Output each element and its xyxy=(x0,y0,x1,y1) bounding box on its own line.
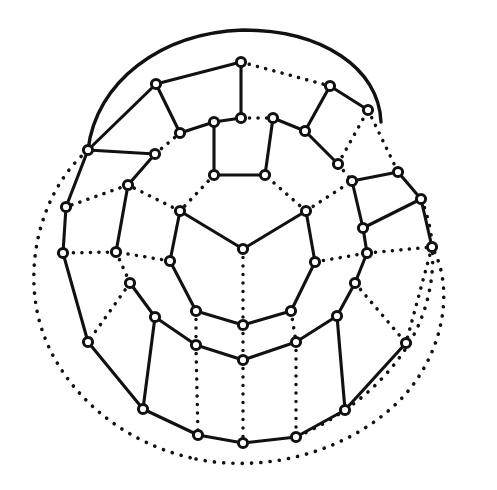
graph-vertex xyxy=(151,79,160,88)
graph-vertex xyxy=(350,278,359,287)
graph-vertex xyxy=(150,149,159,158)
graph-vertex xyxy=(58,248,67,257)
graph-vertex xyxy=(291,337,300,346)
graph-vertex xyxy=(347,176,356,185)
graph-vertex xyxy=(138,404,147,413)
graph-vertex xyxy=(393,167,402,176)
graph-vertex xyxy=(236,113,245,122)
graph-vertex xyxy=(236,57,245,66)
graph-vertex xyxy=(301,206,310,215)
graph-vertex xyxy=(191,340,200,349)
graph-vertex xyxy=(416,194,425,203)
graph-vertex xyxy=(191,306,200,315)
graph-vertex xyxy=(268,113,277,122)
graph-vertex xyxy=(260,170,269,179)
graph-figure xyxy=(0,0,497,490)
graph-vertex xyxy=(209,170,218,179)
graph-vertex xyxy=(165,256,174,265)
graph-vertex xyxy=(325,81,334,90)
graph-vertex xyxy=(123,180,132,189)
graph-vertex xyxy=(332,311,341,320)
graph-vertex xyxy=(83,337,92,346)
graph-vertex xyxy=(175,128,184,137)
graph-vertex xyxy=(333,159,342,168)
graph-vertex xyxy=(291,432,300,441)
graph-vertex xyxy=(358,223,367,232)
graph-vertex xyxy=(83,145,92,154)
graph-vertex xyxy=(362,248,371,257)
graph-canvas xyxy=(0,0,497,490)
graph-vertex xyxy=(401,338,410,347)
graph-vertex xyxy=(427,242,436,251)
graph-vertex xyxy=(300,126,309,135)
graph-vertex xyxy=(238,438,247,447)
graph-vertex xyxy=(61,202,70,211)
graph-vertex xyxy=(238,244,247,253)
graph-vertex xyxy=(286,306,295,315)
graph-vertex xyxy=(310,257,319,266)
graph-vertex xyxy=(238,355,247,364)
graph-vertex xyxy=(209,117,218,126)
graph-vertex xyxy=(150,312,159,321)
graph-vertex xyxy=(125,278,134,287)
graph-vertex xyxy=(340,405,349,414)
graph-vertex xyxy=(363,105,372,114)
graph-vertex xyxy=(175,206,184,215)
graph-vertex xyxy=(193,430,202,439)
graph-vertex xyxy=(111,247,120,256)
graph-vertex xyxy=(238,320,247,329)
